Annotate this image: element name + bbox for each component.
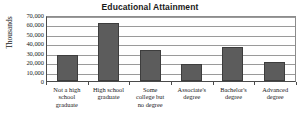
y-axis-tick-label: 20,000 bbox=[10, 60, 44, 66]
bar[interactable] bbox=[222, 47, 243, 81]
bar[interactable] bbox=[264, 62, 285, 81]
x-axis-tick bbox=[171, 82, 172, 85]
bar-slot bbox=[130, 17, 171, 81]
x-axis-category-label: Bachelor'sdegree bbox=[213, 86, 255, 122]
y-axis-tick-labels: 70,00060,00050,00040,00030,00020,00010,0… bbox=[10, 13, 44, 85]
y-axis-tick-label: 40,000 bbox=[10, 41, 44, 47]
chart-title: Educational Attainment bbox=[0, 2, 300, 12]
x-axis-tick bbox=[129, 82, 130, 85]
x-axis-tick bbox=[46, 82, 47, 85]
x-axis-tick bbox=[296, 82, 297, 85]
bar[interactable] bbox=[181, 64, 202, 81]
bar-slot bbox=[47, 17, 88, 81]
bar[interactable] bbox=[98, 23, 119, 81]
y-axis-tick-label: 10,000 bbox=[10, 70, 44, 76]
x-axis-tick bbox=[254, 82, 255, 85]
y-axis-tick-label: 70,000 bbox=[10, 13, 44, 19]
bar-slot bbox=[254, 17, 295, 81]
x-axis-category-label: High schoolgraduate bbox=[88, 86, 130, 122]
bars-layer bbox=[47, 17, 295, 81]
bar-slot bbox=[171, 17, 212, 81]
plot-area bbox=[46, 16, 296, 82]
y-axis-tick-label: 50,000 bbox=[10, 32, 44, 38]
bar[interactable] bbox=[140, 50, 161, 81]
bar-slot bbox=[88, 17, 129, 81]
y-axis-tick-label: 60,000 bbox=[10, 22, 44, 28]
x-axis-tick bbox=[88, 82, 89, 85]
bar-slot bbox=[212, 17, 253, 81]
x-axis-category-label: Associate'sdegree bbox=[171, 86, 213, 122]
y-axis-tick-label: 0 bbox=[10, 79, 44, 85]
x-axis-category-label: Not a highschoolgraduate bbox=[46, 86, 88, 122]
x-axis-tick bbox=[213, 82, 214, 85]
x-axis-category-label: Advanceddegree bbox=[254, 86, 296, 122]
x-axis-category-label: Somecollege butno degree bbox=[129, 86, 171, 122]
bar-chart-figure: Educational Attainment Thousands 70,0006… bbox=[0, 0, 300, 124]
x-axis-category-labels: Not a highschoolgraduateHigh schoolgradu… bbox=[46, 86, 296, 122]
bar[interactable] bbox=[57, 55, 78, 81]
y-axis-tick-label: 30,000 bbox=[10, 51, 44, 57]
